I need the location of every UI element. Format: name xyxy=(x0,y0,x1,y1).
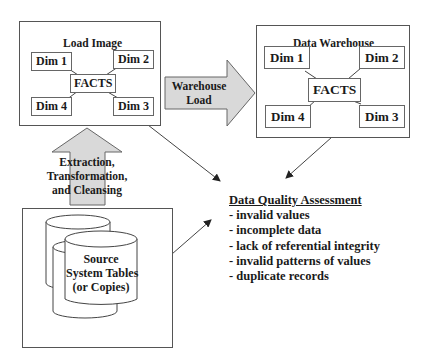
dqa-item: - duplicate records xyxy=(229,269,380,284)
dqa-item: - lack of referential integrity xyxy=(229,239,380,254)
etl-line-1: Extraction, xyxy=(37,155,137,169)
source-line-1: Source xyxy=(66,252,136,266)
dqa-item: - incomplete data xyxy=(229,223,380,238)
dqa-item: - invalid patterns of values xyxy=(229,254,380,269)
etl-line-2: Transformation, xyxy=(37,169,137,183)
etl-line-3: and Cleansing xyxy=(37,183,137,197)
etl-label: Extraction, Transformation, and Cleansin… xyxy=(37,155,137,197)
dqa-item: - invalid values xyxy=(229,208,380,223)
source-tables-label: Source System Tables (or Copies) xyxy=(66,252,136,294)
source-line-3: (or Copies) xyxy=(66,280,136,294)
dqa-heading: Data Quality Assessment xyxy=(229,193,380,208)
source-line-2: System Tables xyxy=(66,266,136,280)
data-quality-assessment: Data Quality Assessment - invalid values… xyxy=(229,193,380,284)
